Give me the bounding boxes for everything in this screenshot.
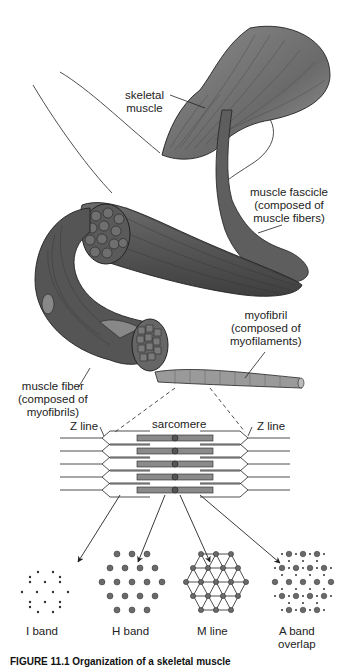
label-h-band: H band — [112, 625, 149, 638]
myofibril — [155, 369, 304, 388]
label-z-line-left: Z line — [70, 420, 98, 433]
label-z-line-right: Z line — [257, 420, 285, 433]
cross-section-h-band — [99, 551, 165, 613]
label-muscle-fiber: muscle fiber (composed of myofibrils) — [18, 380, 88, 419]
label-line: overlap — [278, 638, 316, 651]
label-line: (composed of — [230, 322, 302, 335]
label-line: myofilaments) — [230, 335, 302, 348]
sarcomere-schematic — [60, 427, 290, 497]
label-a-band-overlap: A band overlap — [278, 625, 316, 651]
label-line: myofibrils) — [18, 406, 88, 419]
m-line-dots — [172, 435, 178, 493]
skeletal-muscle — [162, 26, 330, 159]
label-line: A band — [278, 625, 316, 638]
label-skeletal-muscle: skeletal muscle — [125, 89, 164, 115]
label-myofibril: myofibril (composed of myofilaments) — [230, 309, 302, 348]
label-m-line: M line — [197, 625, 228, 638]
label-sarcomere: sarcomere — [152, 418, 206, 431]
label-muscle-fascicle: muscle fascicle (composed of muscle fibe… — [250, 186, 328, 225]
label-line: (composed of — [250, 199, 328, 212]
cross-section-m-line — [183, 551, 248, 612]
cross-section-arrows — [78, 495, 280, 563]
label-line: muscle — [125, 102, 164, 115]
label-line: muscle fascicle — [250, 186, 328, 199]
cross-section-i-band — [21, 571, 69, 613]
label-line: (composed of — [18, 393, 88, 406]
label-line: myofibril — [230, 309, 302, 322]
label-line: muscle fiber — [18, 380, 88, 393]
figure-caption: FIGURE 11.1 Organization of a skeletal m… — [10, 656, 231, 667]
cross-section-a-band-overlap — [272, 551, 334, 613]
label-line: muscle fibers) — [250, 212, 328, 225]
label-i-band: I band — [26, 625, 58, 638]
label-line: skeletal — [125, 89, 164, 102]
